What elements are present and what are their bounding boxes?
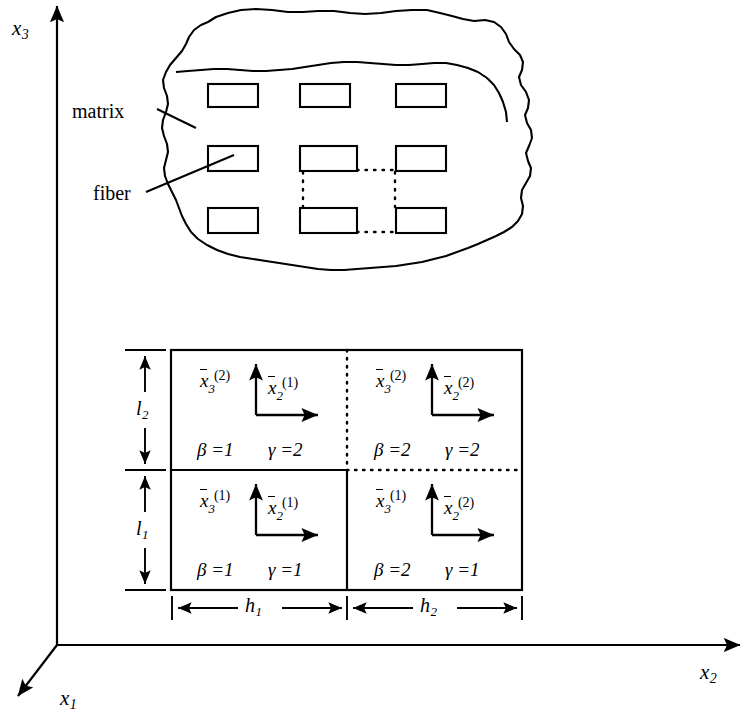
fiber-rect: [396, 208, 446, 233]
callout-matrix: matrix: [72, 101, 124, 121]
cell-top-left-axis-vertical-label: x3(2): [200, 368, 230, 397]
dimension-label-l2: l2: [136, 398, 149, 421]
fiber-rect: [396, 146, 446, 171]
fiber-rect: [300, 208, 357, 233]
global-axis-x1: [18, 645, 57, 696]
axis-label-x3: x3: [12, 18, 29, 42]
cell-bottom-right-axis-horizontal-label: x2(2): [444, 495, 474, 524]
fiber-rect: [396, 84, 446, 107]
cell-top-right-axis-vertical-label: x3(2): [376, 368, 406, 397]
fiber-rect: [208, 146, 258, 171]
cell-bottom-left-axis-horizontal-label: x2(1): [268, 495, 298, 524]
fiber-rect: [300, 84, 350, 107]
dimension-label-l1: l1: [136, 518, 149, 541]
fiber-leader-line: [146, 155, 234, 192]
matrix-outer-boundary: [162, 9, 532, 270]
fiber-rect: [300, 146, 357, 171]
cell-top-left-axis-horizontal-label: x2(1): [268, 375, 298, 404]
dimension-h2: [353, 596, 522, 620]
unit-cell-dotted-outline: [303, 170, 396, 232]
cell-top-right-beta: β =2: [374, 440, 411, 459]
cell-bottom-left-gamma: γ =1: [268, 560, 303, 579]
figure-canvas: x3 x2 x1 matrix fiber l2 l1 h1 h2 x3(2) …: [0, 0, 748, 725]
cell-bottom-left-beta: β =1: [197, 560, 234, 579]
fiber-rect: [208, 208, 258, 233]
matrix-inner-contour: [176, 62, 507, 122]
cell-bottom-right-axis-vertical-label: x3(1): [376, 488, 406, 517]
cell-top-right-gamma: γ =2: [445, 440, 480, 459]
cell-top-right-axis-horizontal-label: x2(2): [444, 375, 474, 404]
cell-bottom-right-gamma: γ =1: [445, 560, 480, 579]
fiber-rect: [208, 84, 258, 107]
dimension-label-h1: h1: [245, 595, 262, 618]
axis-label-x1: x1: [60, 688, 77, 712]
fiber-rectangles: [208, 84, 446, 233]
cell-top-left-beta: β =1: [197, 440, 234, 459]
cell-top-left-gamma: γ =2: [268, 440, 303, 459]
dimension-label-h2: h2: [420, 595, 437, 618]
axis-label-x2: x2: [700, 662, 717, 686]
callout-fiber: fiber: [93, 183, 131, 203]
cell-bottom-right-beta: β =2: [374, 560, 411, 579]
cell-bottom-left-axis-vertical-label: x3(1): [200, 488, 230, 517]
